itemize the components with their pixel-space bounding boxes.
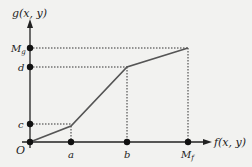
y-axis-arrow-icon bbox=[27, 19, 33, 28]
tick-label-a: a bbox=[68, 149, 74, 160]
tick-dots bbox=[27, 45, 191, 145]
dot-mg bbox=[27, 45, 33, 51]
dot-mf bbox=[185, 139, 191, 145]
guide-lines bbox=[30, 48, 188, 142]
piecewise-mapping-diagram: g(x, y) f(x, y) O Mg d c a b Mf bbox=[0, 0, 252, 167]
dot-origin bbox=[27, 139, 33, 145]
tick-label-c: c bbox=[18, 119, 24, 130]
dot-d bbox=[27, 64, 33, 70]
x-axis-arrow-icon bbox=[203, 139, 212, 145]
dot-b bbox=[124, 139, 130, 145]
tick-label-b: b bbox=[124, 149, 130, 160]
dot-a bbox=[68, 139, 74, 145]
y-axis-label: g(x, y) bbox=[12, 7, 47, 20]
axes bbox=[22, 26, 204, 148]
tick-label-mg: Mg bbox=[10, 43, 26, 56]
mapping-curve bbox=[30, 48, 188, 142]
x-axis-label: f(x, y) bbox=[213, 136, 246, 149]
tick-label-mf: Mf bbox=[180, 149, 195, 162]
dot-c bbox=[27, 121, 33, 127]
origin-label: O bbox=[16, 144, 25, 157]
tick-label-d: d bbox=[18, 62, 24, 73]
